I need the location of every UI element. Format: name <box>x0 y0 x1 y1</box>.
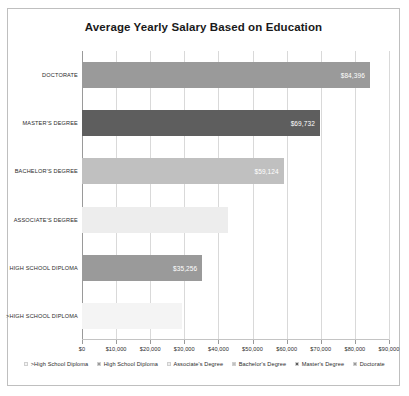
x-tick-label: $60,000 <box>276 346 297 352</box>
x-tick-label: $70,000 <box>310 346 331 352</box>
x-tick-mark <box>287 340 288 344</box>
category-label-slot: ASSOCIATE'S DEGREE <box>8 196 82 244</box>
x-tick-mark <box>218 340 219 344</box>
legend-label: High School Diploma <box>104 361 158 367</box>
legend-label: Master's Degree <box>302 361 344 367</box>
legend-item[interactable]: Associate's Degree <box>167 361 223 367</box>
chart-legend: >High School DiplomaHigh School DiplomaA… <box>8 361 401 367</box>
x-tick-mark <box>321 340 322 344</box>
x-tick-label: $40,000 <box>208 346 229 352</box>
legend-swatch-icon <box>353 362 357 366</box>
legend-item[interactable]: Master's Degree <box>295 361 344 367</box>
category-label-slot: BACHELOR'S DEGREE <box>8 147 82 195</box>
legend-label: >High School Diploma <box>31 361 89 367</box>
x-tick-label: $10,000 <box>106 346 127 352</box>
legend-item[interactable]: >High School Diploma <box>24 361 88 367</box>
x-tick-mark <box>389 340 390 344</box>
chart-title: Average Yearly Salary Based on Education <box>8 21 399 33</box>
category-label: ASSOCIATE'S DEGREE <box>0 217 78 223</box>
x-tick-mark <box>116 340 117 344</box>
legend-swatch-icon <box>232 362 236 366</box>
x-tick-label: $50,000 <box>242 346 263 352</box>
legend-item[interactable]: Bachelor's Degree <box>232 361 286 367</box>
category-label: >HIGH SCHOOL DIPLOMA <box>0 313 78 319</box>
legend-item[interactable]: High School Diploma <box>97 361 158 367</box>
x-tick-label: $30,000 <box>174 346 195 352</box>
x-tick-mark <box>355 340 356 344</box>
x-tick-label: $90,000 <box>379 346 400 352</box>
legend-swatch-icon <box>295 362 299 366</box>
x-tick-label: $20,000 <box>140 346 161 352</box>
chart-frame: Average Yearly Salary Based on Education… <box>7 8 400 386</box>
legend-label: Bachelor's Degree <box>239 361 287 367</box>
x-axis: $0$10,000$20,000$30,000$40,000$50,000$60… <box>82 340 389 358</box>
category-label-slot: DOCTORATE <box>8 51 82 99</box>
x-tick-label: $80,000 <box>344 346 365 352</box>
x-tick-mark <box>184 340 185 344</box>
category-label-slot: HIGH SCHOOL DIPLOMA <box>8 244 82 292</box>
legend-item[interactable]: Doctorate <box>353 361 385 367</box>
x-tick-mark <box>150 340 151 344</box>
x-tick-mark <box>82 340 83 344</box>
category-label: DOCTORATE <box>0 72 78 78</box>
legend-swatch-icon <box>167 362 171 366</box>
category-label: MASTER'S DEGREE <box>0 120 78 126</box>
x-tick-mark <box>253 340 254 344</box>
legend-label: Doctorate <box>360 361 385 367</box>
x-tick-label: $0 <box>79 346 85 352</box>
legend-label: Associate's Degree <box>173 361 223 367</box>
category-axis-labels: DOCTORATEMASTER'S DEGREEBACHELOR'S DEGRE… <box>8 51 401 340</box>
legend-swatch-icon <box>24 362 28 366</box>
legend-swatch-icon <box>97 362 101 366</box>
category-label-slot: MASTER'S DEGREE <box>8 99 82 147</box>
category-label-slot: >HIGH SCHOOL DIPLOMA <box>8 292 82 340</box>
category-label: HIGH SCHOOL DIPLOMA <box>0 265 78 271</box>
category-label: BACHELOR'S DEGREE <box>0 168 78 174</box>
